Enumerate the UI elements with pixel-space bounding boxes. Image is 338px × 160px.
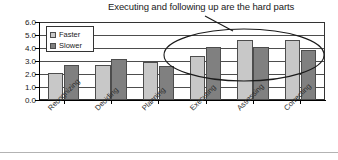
x-tick-mark bbox=[253, 100, 254, 104]
chart-title: Executing and following up are the hard … bbox=[108, 1, 294, 12]
x-tick-mark bbox=[64, 100, 65, 104]
faster-swatch-icon bbox=[50, 32, 56, 38]
legend-label: Slower bbox=[59, 41, 82, 50]
legend-item-slower: Slower bbox=[50, 40, 90, 51]
x-tick-mark bbox=[111, 100, 112, 104]
y-axis-labels: 6.0 5.0 4.0 3.0 2.0 1.0 0.0 bbox=[0, 0, 36, 160]
bar-chart: Executing and following up are the hard … bbox=[0, 0, 338, 160]
chart-legend: Faster Slower bbox=[46, 26, 94, 52]
legend-item-faster: Faster bbox=[50, 29, 90, 40]
x-axis-line bbox=[39, 100, 326, 101]
figure-baseline bbox=[0, 152, 338, 153]
slower-swatch-icon bbox=[50, 43, 56, 49]
x-tick-mark bbox=[300, 100, 301, 104]
legend-label: Faster bbox=[59, 30, 80, 39]
y-axis-line bbox=[39, 22, 40, 101]
x-tick-mark bbox=[158, 100, 159, 104]
x-tick-mark bbox=[206, 100, 207, 104]
